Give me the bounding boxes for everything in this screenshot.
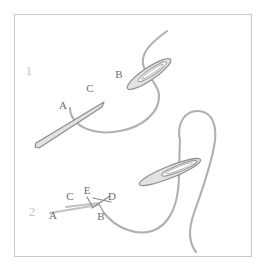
label-step2-b: B [97,210,104,222]
step-number-2: 2 [29,204,36,219]
label-step2-e: E [84,184,91,196]
label-step1-b: B [115,68,122,80]
label-step1-a: A [59,99,67,111]
label-step1-c: C [86,82,93,94]
step-number-1: 1 [26,63,33,78]
label-step2-a: A [49,209,57,221]
label-step2-c: C [66,190,73,202]
sewing-diagram-figure: 1 2 A C B A C E D B [0,0,267,270]
label-step2-d: D [108,190,116,202]
diagram-canvas: 1 2 A C B A C E D B [0,0,267,270]
